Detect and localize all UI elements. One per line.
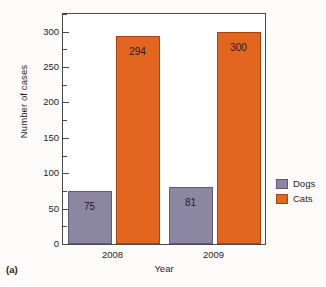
x-axis-tick-label-2009: 2009 <box>184 249 244 260</box>
legend-label-dogs: Dogs <box>293 178 315 189</box>
y-axis-minor-tick <box>63 120 67 121</box>
bar-value-label: 75 <box>69 201 111 212</box>
y-axis-major-tick: 150 <box>63 138 69 139</box>
y-axis-major-tick: 300 <box>63 32 69 33</box>
y-axis-minor-tick <box>63 156 67 157</box>
bar-dogs-2009: 81 <box>169 187 213 244</box>
bar-value-label: 81 <box>170 197 212 208</box>
y-axis-tick-label: 300 <box>43 26 59 37</box>
legend-item-dogs: Dogs <box>276 176 315 191</box>
y-axis-tick-label: 150 <box>43 132 59 143</box>
y-axis-minor-tick <box>63 49 67 50</box>
plot-inner-surface: 0501001502002503007529481300 <box>63 14 265 244</box>
y-axis-tick-label: 50 <box>48 203 59 214</box>
y-axis-major-tick: 0 <box>63 244 69 245</box>
y-axis-major-tick: 200 <box>63 102 69 103</box>
y-axis-tick-label: 200 <box>43 96 59 107</box>
y-axis-major-tick: 100 <box>63 173 69 174</box>
y-axis-tick-label: 250 <box>43 61 59 72</box>
y-axis-minor-tick <box>63 226 67 227</box>
bar-value-label: 294 <box>117 46 159 57</box>
y-axis-minor-tick <box>63 14 67 15</box>
bar-cats-2008: 294 <box>116 36 160 244</box>
bar-cats-2009: 300 <box>217 32 261 244</box>
legend-label-cats: Cats <box>293 193 313 204</box>
legend-item-cats: Cats <box>276 191 315 206</box>
cats-swatch-icon <box>276 194 288 204</box>
y-axis-title: Number of cases <box>18 37 29 167</box>
bar-chart-figure: Number of cases 050100150200250300752948… <box>0 0 326 287</box>
y-axis-major-tick: 250 <box>63 67 69 68</box>
y-axis-minor-tick <box>63 85 67 86</box>
y-axis-minor-tick <box>63 191 67 192</box>
figure-caption: (a) <box>6 264 18 275</box>
y-axis-tick-label: 100 <box>43 167 59 178</box>
chart-legend: Dogs Cats <box>276 176 315 206</box>
bar-dogs-2008: 75 <box>68 191 112 244</box>
x-axis-tick-label-2008: 2008 <box>83 249 143 260</box>
plot-area: 0501001502002503007529481300 <box>62 13 266 245</box>
x-axis-title: Year <box>62 263 266 274</box>
dogs-swatch-icon <box>276 179 288 189</box>
bar-value-label: 300 <box>218 42 260 53</box>
y-axis-tick-label: 0 <box>54 238 59 249</box>
